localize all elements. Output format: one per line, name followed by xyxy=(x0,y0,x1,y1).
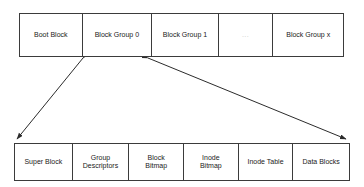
group-cell-super-block[interactable]: Super Block xyxy=(15,144,73,180)
disk-cell-label: Block Group 1 xyxy=(163,31,207,39)
group-cell-inode-table[interactable]: Inode Table xyxy=(239,144,294,180)
group-cell-label: Group Descriptors xyxy=(83,154,118,170)
expansion-connector-left xyxy=(17,58,83,139)
block-group-detail-row: Super Block Group Descriptors Block Bitm… xyxy=(14,143,350,181)
disk-cell-label: Block Group x xyxy=(286,31,330,39)
disk-cell-block-group-0[interactable]: Block Group 0 xyxy=(83,14,153,56)
ellipsis-icon: ... xyxy=(242,31,249,39)
group-cell-inode-bitmap[interactable]: Inode Bitmap xyxy=(184,144,239,180)
disk-cell-block-group-x[interactable]: Block Group x xyxy=(273,14,343,56)
disk-cell-ellipsis[interactable]: ... xyxy=(219,14,274,56)
disk-cell-boot-block[interactable]: Boot Block xyxy=(20,14,83,56)
group-cell-label: Block Bitmap xyxy=(145,154,167,170)
group-cell-label: Inode Bitmap xyxy=(200,154,222,170)
group-cell-group-descriptors[interactable]: Group Descriptors xyxy=(73,144,130,180)
group-cell-data-blocks[interactable]: Data Blocks xyxy=(293,144,349,180)
group-cell-label: Inode Table xyxy=(247,158,283,166)
group-cell-label: Data Blocks xyxy=(302,158,339,166)
disk-layout-row: Boot Block Block Group 0 Block Group 1 .… xyxy=(19,13,344,57)
group-cell-block-bitmap[interactable]: Block Bitmap xyxy=(129,144,184,180)
block-layout-diagram: Boot Block Block Group 0 Block Group 1 .… xyxy=(0,0,364,187)
group-cell-label: Super Block xyxy=(24,158,62,166)
disk-cell-label: Block Group 0 xyxy=(95,31,139,39)
disk-cell-label: Boot Block xyxy=(34,31,67,39)
disk-cell-block-group-1[interactable]: Block Group 1 xyxy=(152,14,219,56)
expansion-connector-right xyxy=(148,58,346,139)
